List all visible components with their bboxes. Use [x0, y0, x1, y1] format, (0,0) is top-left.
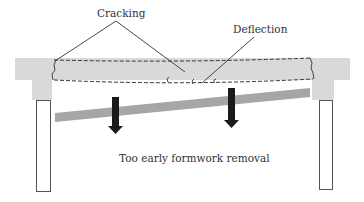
caption-label: Too early formwork removal	[119, 152, 270, 164]
cracking-leader-left	[55, 21, 116, 61]
midspan-crack-3	[214, 79, 216, 83]
formwork-removal-diagram: Cracking Deflection Too early formwork r…	[0, 0, 364, 202]
left-column	[37, 101, 51, 192]
formwork-prop	[55, 88, 310, 122]
left-column-capital	[32, 78, 52, 100]
deflection-label: Deflection	[233, 23, 288, 35]
right-column	[320, 101, 333, 190]
cracking-label: Cracking	[97, 7, 146, 19]
right-column-capital	[312, 78, 334, 100]
right-load-arrow	[224, 88, 239, 128]
